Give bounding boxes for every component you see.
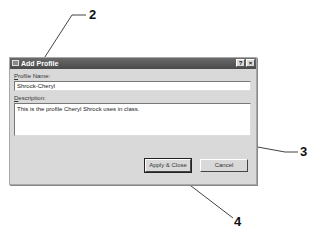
dialog-title: Add Profile (21, 58, 58, 69)
description-textarea[interactable]: This is the profile Cheryl Shrock uses i… (14, 103, 251, 136)
title-bar: Add Profile ? × (10, 58, 256, 69)
profile-name-input[interactable]: Shrock-Cheryl (14, 81, 251, 91)
profile-name-label: Profile Name: (14, 73, 50, 79)
callout-4: 4 (234, 214, 241, 229)
callout-3: 3 (300, 144, 307, 159)
help-button[interactable]: ? (236, 59, 245, 67)
description-label: Description: (14, 95, 46, 101)
cancel-button[interactable]: Cancel (200, 159, 248, 172)
add-profile-dialog: Add Profile ? × Profile Name: Shrock-Che… (9, 57, 257, 185)
apply-close-button[interactable]: Apply & Close (145, 159, 191, 172)
callout-2: 2 (89, 7, 96, 22)
close-button[interactable]: × (246, 59, 255, 67)
app-icon (12, 60, 19, 66)
